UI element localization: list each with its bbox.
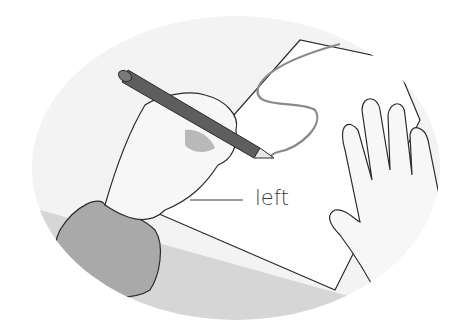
illustration: [0, 0, 472, 325]
hand-label: left: [255, 186, 289, 210]
